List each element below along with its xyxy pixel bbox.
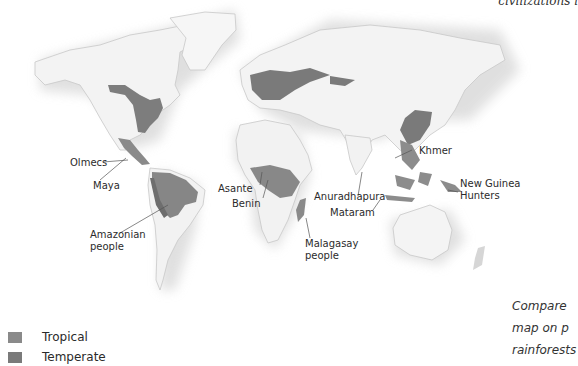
label-maya: Maya (93, 180, 120, 192)
label-new-guinea-hunters: New Guinea Hunters (460, 178, 520, 202)
legend-item-temperate: Temperate (0, 347, 106, 366)
label-khmer: Khmer (419, 145, 452, 157)
legend-item-tropical: Tropical (0, 327, 106, 347)
label-anuradhapura: Anuradhapura (314, 191, 386, 203)
side-note: Compare map on p rainforests (512, 295, 576, 361)
temperate-swatch (8, 352, 22, 363)
india (345, 135, 372, 175)
new-zealand (473, 246, 485, 270)
tropical-swatch (8, 332, 22, 343)
southeast-asia-islands (385, 172, 462, 202)
label-benin: Benin (232, 198, 260, 210)
legend: Tropical Temperate (0, 327, 106, 366)
label-olmecs: Olmecs (70, 157, 107, 169)
label-amazonian-people: Amazonian people (90, 229, 146, 253)
label-mataram: Mataram (330, 207, 375, 219)
label-asante: Asante (218, 183, 253, 195)
label-malagasay-people: Malagasay people (305, 238, 358, 262)
